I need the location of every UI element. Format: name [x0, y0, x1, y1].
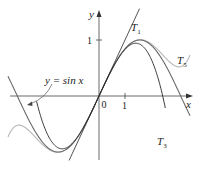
- origin-label: 0: [102, 99, 107, 110]
- pointer-arrow-icon: [27, 102, 33, 107]
- y-tick-label-1: 1: [87, 35, 92, 46]
- t1-label: T1: [131, 21, 141, 36]
- y-axis-arrow-icon: [97, 10, 102, 17]
- axes: [10, 10, 193, 160]
- sin-label-pointer: [30, 84, 52, 104]
- x-tick-label-1: 1: [122, 100, 127, 111]
- taylor-polynomials-chart: y x 0 1 1 y = sin x T1 T5 T3: [0, 0, 202, 172]
- y-axis-label: y: [88, 8, 94, 20]
- t3-label: T3: [157, 135, 167, 150]
- x-axis-label: x: [185, 98, 191, 110]
- sin-label: y = sin x: [44, 74, 83, 86]
